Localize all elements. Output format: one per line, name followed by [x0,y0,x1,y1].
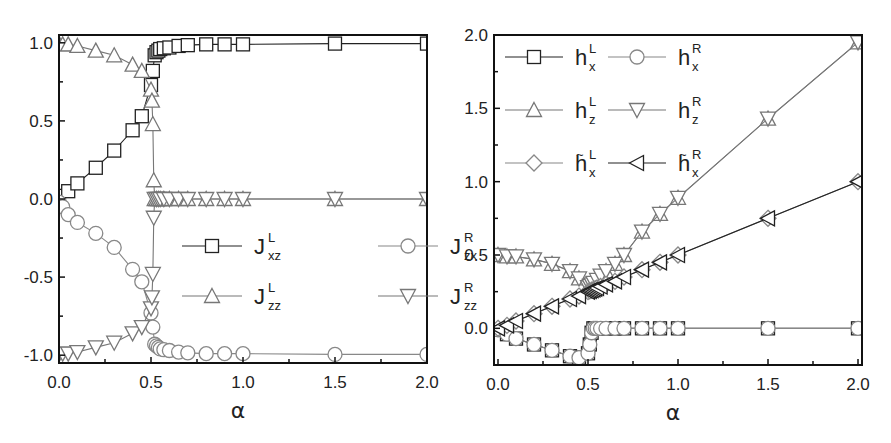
x-tick-label: 1.0 [231,373,255,392]
legend-superscript: L [268,280,275,295]
legend-tilde: ~ [576,147,584,162]
data-point-marker [218,347,232,361]
legend-subscript: zz [464,298,477,313]
legend-subscript: x [692,59,699,74]
legend-marker [630,50,644,64]
x-tick-label: 0.5 [139,373,163,392]
legend-label: J [450,284,461,309]
legend-subscript: z [692,112,699,127]
legend-item: JLxz [182,230,281,263]
plot-area [490,35,866,365]
y-tick-label: 2.0 [464,26,488,45]
data-point-marker [200,38,213,51]
legend-marker [528,51,541,64]
data-point-marker [146,173,161,187]
data-point-marker [125,57,140,71]
series-j-zz-r [52,193,435,362]
legend-subscript: x [692,165,699,180]
data-point-marker [218,38,231,51]
data-point-marker [527,337,541,351]
legend-superscript: R [692,147,701,162]
legend-superscript: L [589,147,596,162]
data-point-marker [71,177,84,190]
y-tick-label: 1.0 [464,173,488,192]
series-h-x-r [491,321,865,364]
data-point-marker [126,124,139,137]
legend-superscript: R [464,280,473,295]
x-axis-title: α [231,398,246,423]
data-point-marker [108,144,121,157]
data-point-marker [761,321,775,335]
y-tick-label: 0.0 [464,319,488,338]
legend-item: JLzz [182,280,281,313]
y-tick-label: 0.0 [29,190,53,209]
legend-item: hRz [608,94,701,127]
legend-superscript: L [268,230,275,245]
x-tick-label: 0.0 [47,373,71,392]
legend-superscript: R [464,230,473,245]
data-point-marker [107,48,122,62]
x-axis: 0.00.51.01.52.0α [486,359,870,425]
legend-label: h [575,98,587,123]
series-j-zz-l [52,36,435,205]
legend-marker [401,239,415,253]
chart-panel-left: 0.00.51.01.52.0α-1.0-0.50.00.51.0JLxzJRz… [24,34,478,423]
data-point-marker [89,161,102,174]
x-tick-label: 2.0 [415,373,439,392]
legend-item: hLx [505,41,596,74]
data-point-marker [509,332,523,346]
data-point-marker [237,38,250,51]
x-tick-label: 1.5 [323,373,347,392]
data-point-marker [146,211,161,225]
data-point-marker [329,37,342,50]
legend-label: h [678,45,690,70]
data-point-marker [653,321,667,335]
legend-label: h [575,45,587,70]
legend-superscript: R [692,41,701,56]
legend-label: h [678,98,690,123]
legend-item: h~Lx [505,147,596,180]
legend-subscript: z [589,112,596,127]
y-tick-label: -1.0 [24,346,53,365]
legend: hLxhRxhLzhRzh~Lxh~Rx [505,41,701,180]
data-point-marker [70,215,84,229]
data-point-marker [125,327,140,341]
data-point-marker [181,39,194,52]
data-point-marker [107,240,121,254]
legend-tilde: ~ [679,147,687,162]
x-axis: 0.00.51.01.52.0α [47,357,439,423]
legend-subscript: zz [268,298,281,313]
legend-marker [206,240,219,253]
y-tick-label: -0.5 [24,268,53,287]
data-point-marker [545,343,559,357]
data-point-marker [671,321,685,335]
data-point-marker [88,43,103,57]
data-point-marker [617,321,631,335]
y-tick-label: 1.0 [29,34,53,53]
legend-item: h~Rx [608,147,701,180]
x-tick-label: 0.5 [576,375,600,394]
legend-label: J [254,234,265,259]
plot-area [52,36,435,362]
legend-subscript: x [589,165,596,180]
data-point-marker [135,110,148,123]
legend-superscript: R [692,94,701,109]
y-tick-label: 0.5 [29,112,53,131]
data-point-marker [135,275,149,289]
legend-item: hLz [505,94,596,127]
legend: JLxzJRzxJLzzJRzz [182,230,478,313]
data-point-marker [199,347,213,361]
data-point-marker [107,336,122,350]
x-axis-title: α [666,400,681,425]
x-tick-label: 2.0 [846,375,870,394]
y-tick-label: 1.5 [464,99,488,118]
x-tick-label: 0.0 [486,375,510,394]
legend-marker [630,156,644,171]
legend-label: J [450,234,461,259]
chart-canvas: 0.00.51.01.52.0α-1.0-0.50.00.51.0JLxzJRz… [0,0,891,443]
data-point-marker [181,346,195,360]
figure: 0.00.51.01.52.0α-1.0-0.50.00.51.0JLxzJRz… [0,0,891,443]
legend-marker [526,155,542,171]
legend-subscript: xz [268,248,281,263]
legend-superscript: L [589,94,596,109]
